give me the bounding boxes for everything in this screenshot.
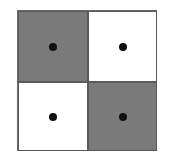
center-dot bbox=[119, 43, 127, 51]
cell-bottom-left-white bbox=[18, 82, 88, 151]
cell-top-left-shaded bbox=[18, 11, 88, 82]
cell-bottom-right-shaded bbox=[88, 82, 157, 151]
checkerboard-grid bbox=[17, 10, 157, 151]
center-dot bbox=[49, 43, 57, 51]
cell-top-right-white bbox=[88, 11, 157, 82]
center-dot bbox=[119, 113, 127, 121]
center-dot bbox=[49, 113, 57, 121]
